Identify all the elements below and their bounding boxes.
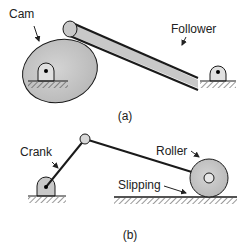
crank-arrow: [52, 162, 58, 168]
slipping-arrow: [164, 186, 186, 193]
follower-label: Follower: [171, 22, 216, 36]
follower-arrow: [182, 37, 186, 45]
crank-pin: [44, 185, 48, 189]
caption-b: (b): [123, 228, 138, 242]
caption-a: (a): [118, 109, 133, 123]
figure-a: Cam Follower (a): [9, 7, 236, 123]
follower-pivot: [200, 66, 236, 88]
slipping-label: Slipping: [118, 178, 161, 192]
roller-arrow: [191, 151, 199, 157]
ground: [114, 197, 237, 204]
cam-label: Cam: [9, 7, 34, 21]
crank-joint: [80, 134, 90, 144]
figure-b: Crank Roller Slipping (b): [20, 134, 237, 242]
coupler-link: [85, 139, 208, 177]
roller-hub: [204, 173, 214, 183]
crank-pivot: [28, 177, 66, 203]
roller-label: Roller: [156, 144, 187, 158]
cam-arrow: [34, 26, 39, 41]
mechanism-diagram: Cam Follower (a) Crank Roller: [0, 0, 250, 250]
crank-label: Crank: [20, 145, 53, 159]
